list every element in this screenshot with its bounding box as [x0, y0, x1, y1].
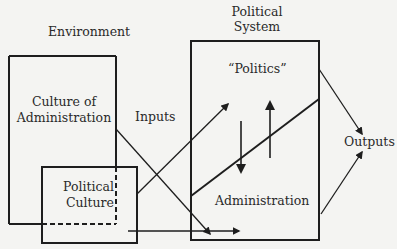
- environment-label: Environment: [48, 25, 130, 39]
- arrow-politics-to-outputs: [319, 69, 362, 134]
- political-system-label-line2: System: [224, 20, 290, 34]
- political-culture-line2: Culture: [62, 196, 114, 210]
- arrow-culture-admin-to-administration: [116, 129, 210, 234]
- politics-administration-divider: [191, 99, 319, 196]
- culture-of-administration-line1: Culture of: [14, 95, 114, 109]
- political-system-label-line1: Political: [224, 5, 290, 19]
- political-culture-label: Political Culture: [62, 180, 114, 210]
- political-system-label: Political System: [224, 5, 290, 34]
- culture-of-administration-line2: Administration: [14, 111, 114, 125]
- administration-label: Administration: [215, 194, 309, 208]
- inputs-label: Inputs: [135, 110, 175, 124]
- outputs-label: Outputs: [344, 135, 395, 149]
- politics-label: “Politics”: [228, 62, 287, 76]
- arrow-administration-to-outputs: [321, 152, 362, 214]
- culture-of-administration-label: Culture of Administration: [14, 95, 114, 125]
- political-culture-line1: Political: [62, 180, 114, 194]
